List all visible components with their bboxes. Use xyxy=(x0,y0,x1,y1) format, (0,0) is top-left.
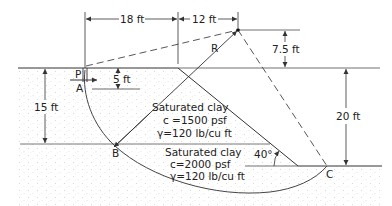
layer2-unit-weight: γ=120 lb/cu ft xyxy=(170,170,245,182)
dim-20ft-label: 20 ft xyxy=(336,110,360,122)
layer2-name: Saturated clay xyxy=(165,146,242,158)
dim-7-5ft-label: 7.5 ft xyxy=(272,43,300,55)
point-b-label: B xyxy=(112,147,119,159)
dim-5ft-label: 5 ft xyxy=(113,73,131,85)
layer2-cohesion: c=2000 psf xyxy=(170,158,231,170)
point-a-label: A xyxy=(76,82,84,94)
slope-stability-diagram: 18 ft 12 ft 7.5 ft 20 ft 15 ft 5 ft P A … xyxy=(0,0,392,206)
layer1-cohesion: c =1500 psf xyxy=(163,114,227,126)
radius-label: R xyxy=(211,42,218,54)
slope-angle-label: 40° xyxy=(254,148,273,160)
point-p-label: P xyxy=(75,68,81,80)
dim-18ft-label: 18 ft xyxy=(120,13,144,25)
layer1-name: Saturated clay xyxy=(152,101,229,113)
layer1-unit-weight: γ=120 lb/cu ft xyxy=(157,127,232,139)
point-c-label: C xyxy=(326,168,333,180)
dim-12ft-label: 12 ft xyxy=(192,13,216,25)
dim-15ft-label: 15 ft xyxy=(34,101,58,113)
center-point xyxy=(236,28,240,32)
